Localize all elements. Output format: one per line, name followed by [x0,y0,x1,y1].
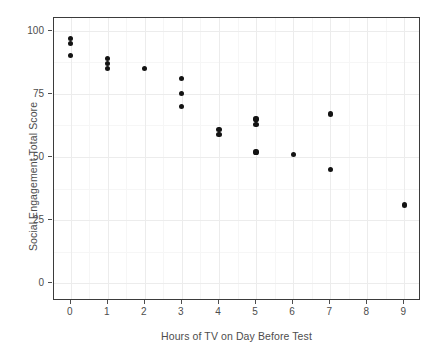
grid-line-minor-vertical [163,18,164,299]
grid-line-horizontal [54,220,419,221]
grid-line-vertical [404,18,405,299]
x-axis-title: Hours of TV on Day Before Test [53,330,420,342]
y-tick-mark [48,30,52,31]
data-point [179,104,184,109]
plot-panel [53,17,420,300]
grid-line-minor-vertical [312,18,313,299]
y-axis-ticks: 0255075100 [0,17,53,300]
x-axis-ticks: 0123456789 [53,300,420,322]
grid-line-vertical [71,18,72,299]
x-tick-mark [107,300,108,304]
data-point [291,152,296,157]
x-tick-mark [144,300,145,304]
grid-line-vertical [145,18,146,299]
y-tick-label: 50 [18,150,44,161]
grid-line-minor-vertical [126,18,127,299]
x-tick-label: 6 [280,306,304,317]
grid-line-vertical [367,18,368,299]
data-point [253,149,258,154]
data-point [179,91,184,96]
data-point [253,122,258,127]
y-tick-label: 25 [18,214,44,225]
x-tick-label: 0 [58,306,82,317]
x-tick-mark [292,300,293,304]
x-tick-mark [218,300,219,304]
x-tick-label: 7 [317,306,341,317]
grid-line-minor-horizontal [54,189,419,190]
grid-line-minor-vertical [89,18,90,299]
x-tick-label: 9 [391,306,415,317]
x-tick-label: 5 [243,306,267,317]
data-point [68,41,73,46]
x-tick-mark [403,300,404,304]
x-tick-label: 3 [169,306,193,317]
y-tick-label: 100 [18,24,44,35]
data-point [216,127,221,132]
grid-line-minor-vertical [200,18,201,299]
y-tick-label: 75 [18,87,44,98]
scatter-plot-figure: Social Engagement Total Score 0255075100… [0,0,445,353]
y-tick-label: 0 [18,277,44,288]
data-point [328,111,333,116]
data-point [402,202,407,207]
grid-line-minor-horizontal [54,252,419,253]
grid-line-minor-vertical [275,18,276,299]
y-tick-mark [48,282,52,283]
x-tick-label: 4 [206,306,230,317]
x-tick-label: 1 [95,306,119,317]
grid-line-minor-horizontal [54,125,419,126]
data-point [179,76,184,81]
x-tick-label: 2 [132,306,156,317]
grid-line-vertical [182,18,183,299]
x-tick-mark [255,300,256,304]
x-tick-label: 8 [354,306,378,317]
x-tick-mark [329,300,330,304]
data-point [142,66,147,71]
grid-line-horizontal [54,94,419,95]
data-point [328,167,333,172]
y-tick-mark [48,156,52,157]
x-tick-mark [70,300,71,304]
y-tick-mark [48,93,52,94]
grid-line-vertical [330,18,331,299]
grid-line-horizontal [54,157,419,158]
y-tick-mark [48,219,52,220]
grid-line-minor-vertical [238,18,239,299]
data-point [68,53,73,58]
data-point [253,116,258,121]
data-point [105,66,110,71]
grid-line-horizontal [54,283,419,284]
x-tick-mark [366,300,367,304]
grid-line-vertical [219,18,220,299]
grid-line-vertical [256,18,257,299]
grid-line-horizontal [54,31,419,32]
grid-line-minor-vertical [349,18,350,299]
x-tick-mark [181,300,182,304]
grid-line-minor-vertical [386,18,387,299]
grid-line-vertical [293,18,294,299]
data-point [216,132,221,137]
